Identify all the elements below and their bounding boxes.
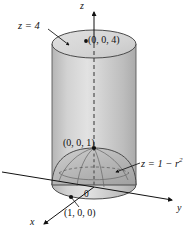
figure-container: z = 4 z (0, 0, 4) (0, 0, 1) z = 1 − r2 0… bbox=[0, 0, 194, 241]
label-plane-z-equals-4: z = 4 bbox=[18, 21, 40, 32]
label-paraboloid-exponent: 2 bbox=[179, 156, 183, 164]
label-paraboloid-equation-text: z = 1 − r bbox=[141, 158, 179, 169]
label-x-axis: x bbox=[30, 217, 34, 227]
label-y-axis: y bbox=[177, 203, 181, 213]
label-paraboloid-equation: z = 1 − r2 bbox=[141, 157, 183, 169]
label-point-0-0-1: (0, 0, 1) bbox=[63, 138, 95, 148]
label-point-0-0-4: (0, 0, 4) bbox=[88, 35, 120, 45]
label-point-1-0-0: (1, 0, 0) bbox=[64, 208, 96, 218]
label-z-axis: z bbox=[80, 1, 84, 11]
label-origin: 0 bbox=[84, 190, 89, 200]
